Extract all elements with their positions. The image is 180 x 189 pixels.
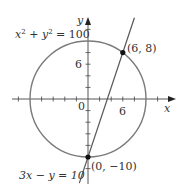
line-equation-label: 3x − y = 10 <box>19 169 85 182</box>
x-axis-label: x <box>164 102 171 115</box>
point-label-6-8: (6, 8) <box>127 42 157 55</box>
x-tick-label-6: 6 <box>119 105 126 118</box>
intersection-point-6-8 <box>120 50 125 55</box>
intersection-point-0-neg10 <box>85 154 90 159</box>
x-axis <box>12 96 176 102</box>
diagram-canvas: y x 0 6 6 x2 + y2 = 100 3x − y = 10 (6, … <box>0 0 180 189</box>
y-tick-label-6: 6 <box>75 58 82 71</box>
y-axis-arrow-icon <box>85 17 91 25</box>
point-label-0-neg10: (0, −10) <box>91 160 137 173</box>
circle-equation-label: x2 + y2 = 100 <box>15 28 90 41</box>
y-axis-label: y <box>76 14 84 27</box>
origin-label: 0 <box>78 100 85 113</box>
